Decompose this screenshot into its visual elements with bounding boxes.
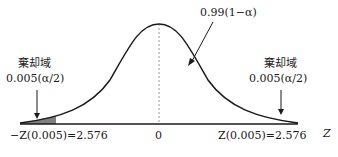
right-arrowhead — [278, 109, 284, 115]
acceptance-region-label: 0.99(1−α) — [200, 6, 257, 19]
right-critical-value: Z(0.005)=2.576 — [218, 129, 306, 142]
right-rejection-value: 0.005(α/2) — [249, 72, 307, 85]
left-arrowhead — [34, 113, 40, 119]
center-tick: 0 — [155, 129, 162, 142]
left-critical-value: −Z(0.005)=2.576 — [10, 129, 108, 142]
right-rejection-label: 棄却域 — [264, 57, 297, 70]
left-rejection-value: 0.005(α/2) — [6, 72, 64, 85]
axis-label: Z — [323, 127, 331, 140]
center-arrowhead — [188, 58, 195, 66]
center-arrow — [192, 22, 213, 61]
left-rejection-label: 棄却域 — [18, 57, 51, 70]
